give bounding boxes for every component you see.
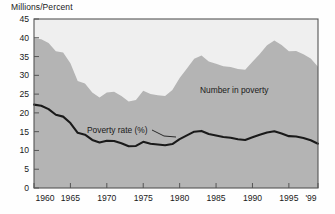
x-tick-label: 1990 — [243, 193, 262, 203]
x-tick-label: 1965 — [61, 193, 80, 203]
y-tick-label: 10 — [19, 145, 29, 155]
y-tick-label: 20 — [19, 108, 29, 118]
line-series-annotation: Poverty rate (%) — [87, 125, 148, 135]
y-tick-label: 30 — [19, 70, 29, 80]
x-tick-label: 1975 — [134, 193, 153, 203]
chart-plot-svg: 051015202530354045 196019651970197519801… — [0, 0, 335, 214]
y-tick-label: 15 — [19, 127, 29, 137]
x-tick-label: 1960 — [35, 193, 54, 203]
x-tick-label: 1980 — [170, 193, 189, 203]
x-tick-label: 1970 — [97, 193, 116, 203]
x-tick-label: 1985 — [206, 193, 225, 203]
y-tick-label: 5 — [24, 164, 29, 174]
y-tick-label: 35 — [19, 52, 29, 62]
x-tick-label: '99 — [305, 193, 316, 203]
y-tick-label: 40 — [19, 33, 29, 43]
poverty-chart-figure: Millions/Percent 051015202530354045 1960… — [0, 0, 335, 214]
x-tick-label: 1995 — [279, 193, 298, 203]
y-tick-label: 45 — [19, 14, 29, 24]
y-tick-label: 25 — [19, 89, 29, 99]
y-tick-label: 0 — [24, 183, 29, 193]
area-series-annotation: Number in poverty — [200, 85, 269, 95]
